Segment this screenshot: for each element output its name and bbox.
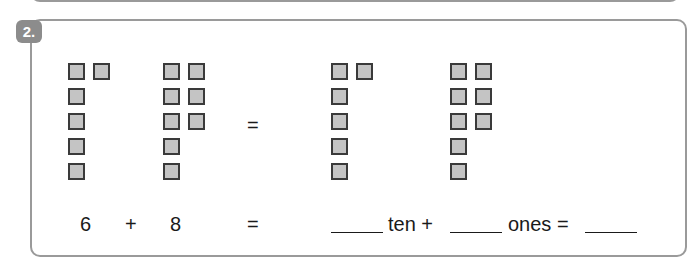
result-ten-block-square bbox=[331, 163, 348, 180]
addend-1-block-square bbox=[68, 163, 85, 180]
ten-label: ten + bbox=[388, 212, 433, 236]
result-ones-block-square bbox=[450, 163, 467, 180]
addend-1: 6 bbox=[80, 212, 91, 236]
addend-2: 8 bbox=[170, 212, 181, 236]
result-ones-block-square bbox=[475, 88, 492, 105]
result-ones-block-square bbox=[475, 113, 492, 130]
result-ten-block-square bbox=[331, 63, 348, 80]
addend-1-block-square bbox=[68, 113, 85, 130]
result-ones-block-square bbox=[450, 88, 467, 105]
addend-1-block-square bbox=[68, 63, 85, 80]
result-ten-block-square bbox=[331, 113, 348, 130]
equals-sign: = bbox=[247, 212, 259, 236]
addend-2-block-square bbox=[163, 63, 180, 80]
addend-2-block-square bbox=[188, 63, 205, 80]
addend-1-block-square bbox=[68, 138, 85, 155]
result-ones-block-square bbox=[450, 63, 467, 80]
question-number-badge: 2. bbox=[16, 20, 42, 43]
blocks-equals-sign: = bbox=[247, 113, 259, 137]
addend-2-block-square bbox=[163, 113, 180, 130]
tens-answer-blank[interactable] bbox=[331, 232, 383, 233]
previous-question-card bbox=[30, 0, 680, 2]
addend-1-block-square bbox=[68, 88, 85, 105]
result-ten-block-square bbox=[331, 138, 348, 155]
result-ones-block-square bbox=[475, 63, 492, 80]
total-answer-blank[interactable] bbox=[585, 232, 637, 233]
result-ones-block-square bbox=[450, 113, 467, 130]
result-ten-block-square bbox=[331, 88, 348, 105]
addend-2-block-square bbox=[163, 138, 180, 155]
addend-1-block-square bbox=[93, 63, 110, 80]
addend-2-block-square bbox=[188, 88, 205, 105]
plus-sign: + bbox=[125, 212, 137, 236]
result-ones-block-square bbox=[450, 138, 467, 155]
addend-2-block-square bbox=[163, 163, 180, 180]
addend-2-block-square bbox=[188, 113, 205, 130]
ones-label: ones = bbox=[508, 212, 569, 236]
ones-answer-blank[interactable] bbox=[450, 232, 502, 233]
addend-2-block-square bbox=[163, 88, 180, 105]
result-ten-block-square bbox=[356, 63, 373, 80]
